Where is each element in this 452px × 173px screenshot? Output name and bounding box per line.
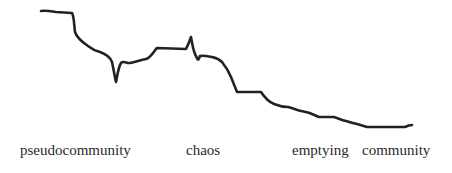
stage-label-pseudocommunity: pseudocommunity — [20, 143, 131, 158]
stage-diagram: pseudocommunity chaos emptying community — [0, 0, 452, 173]
stage-label-chaos: chaos — [186, 143, 220, 158]
progression-line — [41, 11, 412, 127]
stage-label-community: community — [362, 143, 430, 158]
stage-label-emptying: emptying — [292, 143, 349, 158]
